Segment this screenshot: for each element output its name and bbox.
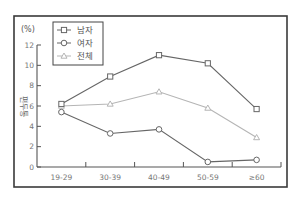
x-tick-label: 19-29 — [51, 173, 73, 182]
square-marker-icon — [156, 53, 161, 58]
triangle-marker-icon — [156, 89, 162, 94]
legend-label: 전체 — [77, 51, 93, 61]
y-tick-label: 0 — [29, 163, 34, 172]
y-tick-label: 6 — [29, 102, 34, 111]
series-lines — [58, 53, 259, 165]
square-marker-icon — [61, 27, 66, 32]
x-tick-label: ≥60 — [249, 173, 265, 182]
square-marker-icon — [59, 101, 64, 106]
series-female — [59, 109, 260, 164]
y-tick-label: 10 — [24, 61, 34, 70]
unit-label: (%) — [21, 25, 35, 34]
circle-marker-icon — [205, 159, 211, 165]
circle-marker-icon — [254, 157, 260, 163]
square-marker-icon — [108, 74, 113, 79]
y-tick-label: 12 — [24, 41, 34, 50]
legend: 남자여자전체 — [53, 22, 103, 65]
y-tick-label: 8 — [29, 81, 34, 90]
circle-marker-icon — [107, 131, 113, 137]
line-chart: (%) 편두통 02468101219-2930-3940-4950-59≥60… — [0, 0, 300, 201]
legend-label: 남자 — [77, 25, 93, 35]
square-marker-icon — [205, 61, 210, 66]
legend-label: 여자 — [77, 38, 93, 48]
y-tick-label: 4 — [29, 122, 34, 131]
square-marker-icon — [254, 106, 259, 111]
y-tick-label: 2 — [29, 142, 34, 151]
triangle-marker-icon — [254, 135, 260, 140]
circle-marker-icon — [156, 127, 162, 133]
x-tick-label: 30-39 — [99, 173, 121, 182]
circle-marker-icon — [59, 109, 65, 115]
x-tick-label: 40-49 — [148, 173, 170, 182]
circle-marker-icon — [61, 40, 67, 46]
y-axis-label: 편두통 — [19, 96, 29, 117]
x-tick-label: 50-59 — [197, 173, 219, 182]
